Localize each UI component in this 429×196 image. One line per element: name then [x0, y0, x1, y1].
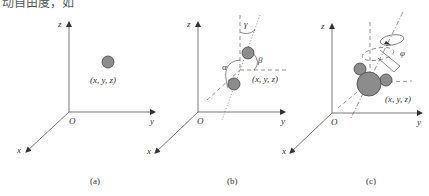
x-axis: [26, 112, 69, 152]
rotation-zigzag: [378, 50, 400, 72]
alpha-label: α: [222, 62, 227, 72]
caption-b: (b): [227, 176, 238, 186]
x-axis-label: x: [281, 146, 286, 156]
rotation-arrow-icon: [384, 41, 391, 45]
origin-label: O: [197, 116, 204, 126]
y-axis-label: y: [280, 116, 285, 126]
atom-right: [380, 74, 392, 86]
panel-b: z y x O γ β α (x, y, z) (b): [146, 15, 288, 186]
atom-central: [357, 72, 381, 96]
point-label: (x, y, z): [252, 74, 278, 84]
figure: z y x O (x, y, z) (a) z y x O γ β α (x, …: [0, 0, 429, 196]
gamma-label: γ: [244, 19, 248, 29]
caption-a: (a): [90, 176, 100, 186]
y-axis-label: y: [149, 116, 154, 126]
atom-lower: [228, 78, 240, 90]
x-axis: [290, 113, 332, 153]
rotation-ellipse-dashed: [361, 45, 395, 62]
point-label: (x, y, z): [90, 75, 116, 85]
atom-upper: [242, 47, 254, 59]
panel-c: z y x O φ (x, y, z) (c): [281, 12, 422, 186]
point-label: (x, y, z): [385, 94, 411, 104]
atom: [102, 56, 114, 68]
y-axis-label: y: [416, 117, 421, 127]
x-axis-label: x: [146, 146, 151, 156]
beta-label: β: [257, 55, 263, 65]
origin-label: O: [69, 116, 76, 126]
gamma-arc: [240, 30, 255, 34]
z-axis-label: z: [320, 21, 325, 31]
caption-c: (c): [366, 176, 376, 186]
x-axis: [155, 112, 198, 153]
rotation-ellipse-top: [379, 33, 404, 47]
panel-a: z y x O (x, y, z) (a): [16, 19, 155, 186]
z-axis-label: z: [57, 19, 62, 29]
phi-label: φ: [400, 48, 405, 58]
x-axis-label: x: [16, 145, 21, 155]
origin-label: O: [331, 117, 338, 127]
z-axis-label: z: [186, 19, 191, 29]
